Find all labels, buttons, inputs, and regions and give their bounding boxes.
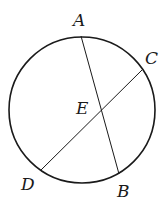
diagram-canvas: A C E D B: [0, 0, 164, 208]
label-d: D: [20, 174, 35, 194]
chord-cd: [41, 70, 142, 170]
label-e: E: [75, 98, 89, 118]
label-c: C: [145, 48, 158, 68]
label-a: A: [71, 10, 85, 30]
label-b: B: [116, 181, 130, 201]
